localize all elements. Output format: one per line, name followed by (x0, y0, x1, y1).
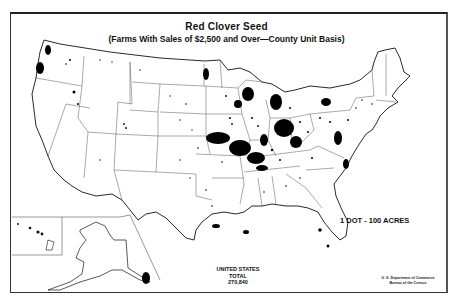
map-subtitle: (Farms With Sales of $2,500 and Over—Cou… (0, 34, 453, 44)
source-line2: Bureau of the Census (372, 281, 444, 286)
scattered-dots (99, 59, 373, 207)
map-title: Red Clover Seed (0, 21, 453, 32)
us-dot-map (0, 0, 453, 303)
source-line1: U. S. Department of Commerce (372, 276, 444, 281)
acreage-dots (36, 45, 349, 284)
dot-legend: 1 DOT - 100 ACRES (340, 216, 409, 225)
source-credit: U. S. Department of Commerce Bureau of t… (372, 276, 444, 285)
hawaii-islands (17, 223, 43, 235)
inset-boxes (12, 215, 160, 280)
alaska-outline (48, 222, 150, 290)
state-boundaries (36, 54, 396, 208)
us-total-box: UNITED STATES TOTAL 270,840 (208, 266, 268, 286)
total-label-line1: UNITED STATES (208, 266, 268, 273)
total-value: 270,840 (208, 279, 268, 286)
